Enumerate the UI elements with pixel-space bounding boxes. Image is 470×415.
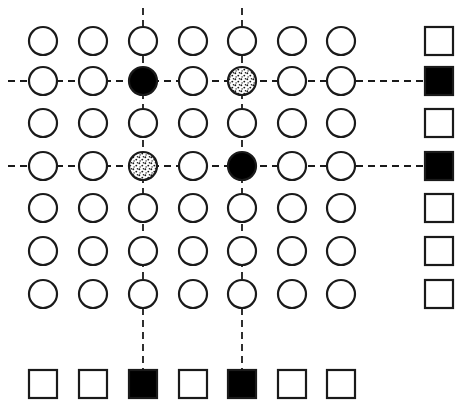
node-circle-r6-c7-open[interactable]: [327, 237, 355, 265]
node-circle-r4-c1-open[interactable]: [29, 152, 57, 180]
node-circle-r5-c5-open[interactable]: [228, 194, 256, 222]
node-circle-r1-c1-open[interactable]: [29, 27, 57, 55]
node-circle-r4-c3-stippled[interactable]: [129, 152, 157, 180]
node-circle-r1-c5-open[interactable]: [228, 27, 256, 55]
node-circle-r3-c1-open[interactable]: [29, 109, 57, 137]
bottom-square-c1-open[interactable]: [29, 370, 57, 398]
node-circle-r2-c3-filled[interactable]: [129, 67, 157, 95]
node-circle-r4-c5-filled[interactable]: [228, 152, 256, 180]
node-circle-r7-c4-open[interactable]: [179, 280, 207, 308]
node-circle-r3-c5-open[interactable]: [228, 109, 256, 137]
right-square-r6-open[interactable]: [425, 237, 453, 265]
node-circle-r4-c7-open[interactable]: [327, 152, 355, 180]
node-circle-r7-c6-open[interactable]: [278, 280, 306, 308]
node-circle-r7-c7-open[interactable]: [327, 280, 355, 308]
node-circle-r6-c5-open[interactable]: [228, 237, 256, 265]
node-circle-r6-c2-open[interactable]: [79, 237, 107, 265]
bottom-square-c5-filled[interactable]: [228, 370, 256, 398]
node-circle-r6-c3-open[interactable]: [129, 237, 157, 265]
diagram-canvas: [0, 0, 470, 415]
node-circle-r7-c1-open[interactable]: [29, 280, 57, 308]
node-circle-r5-c6-open[interactable]: [278, 194, 306, 222]
node-circle-r4-c6-open[interactable]: [278, 152, 306, 180]
right-square-r3-open[interactable]: [425, 109, 453, 137]
node-circle-r7-c3-open[interactable]: [129, 280, 157, 308]
node-circle-r3-c4-open[interactable]: [179, 109, 207, 137]
node-circle-r5-c4-open[interactable]: [179, 194, 207, 222]
right-square-r7-open[interactable]: [425, 280, 453, 308]
lattice-nodes: [29, 27, 453, 398]
node-circle-r3-c6-open[interactable]: [278, 109, 306, 137]
node-circle-r4-c2-open[interactable]: [79, 152, 107, 180]
bottom-square-c2-open[interactable]: [79, 370, 107, 398]
node-circle-r6-c4-open[interactable]: [179, 237, 207, 265]
bottom-square-c6-open[interactable]: [278, 370, 306, 398]
node-circle-r1-c7-open[interactable]: [327, 27, 355, 55]
node-circle-r5-c1-open[interactable]: [29, 194, 57, 222]
node-circle-r3-c2-open[interactable]: [79, 109, 107, 137]
node-circle-r2-c1-open[interactable]: [29, 67, 57, 95]
node-circle-r2-c4-open[interactable]: [179, 67, 207, 95]
right-square-r1-open[interactable]: [425, 27, 453, 55]
node-circle-r6-c6-open[interactable]: [278, 237, 306, 265]
bottom-square-c3-filled[interactable]: [129, 370, 157, 398]
node-circle-r2-c2-open[interactable]: [79, 67, 107, 95]
right-square-r4-filled[interactable]: [425, 152, 453, 180]
dashed-guide-lines: [8, 8, 439, 384]
node-circle-r7-c2-open[interactable]: [79, 280, 107, 308]
node-circle-r3-c3-open[interactable]: [129, 109, 157, 137]
node-circle-r1-c3-open[interactable]: [129, 27, 157, 55]
node-circle-r2-c5-stippled[interactable]: [228, 67, 256, 95]
node-circle-r1-c4-open[interactable]: [179, 27, 207, 55]
right-square-r5-open[interactable]: [425, 194, 453, 222]
node-circle-r6-c1-open[interactable]: [29, 237, 57, 265]
node-circle-r2-c7-open[interactable]: [327, 67, 355, 95]
node-circle-r5-c3-open[interactable]: [129, 194, 157, 222]
node-circle-r2-c6-open[interactable]: [278, 67, 306, 95]
bottom-square-c7-open[interactable]: [327, 370, 355, 398]
node-circle-r1-c2-open[interactable]: [79, 27, 107, 55]
node-circle-r5-c2-open[interactable]: [79, 194, 107, 222]
node-circle-r5-c7-open[interactable]: [327, 194, 355, 222]
node-circle-r7-c5-open[interactable]: [228, 280, 256, 308]
right-square-r2-filled[interactable]: [425, 67, 453, 95]
node-circle-r3-c7-open[interactable]: [327, 109, 355, 137]
lattice-diagram-svg: [0, 0, 470, 415]
node-circle-r1-c6-open[interactable]: [278, 27, 306, 55]
node-circle-r4-c4-open[interactable]: [179, 152, 207, 180]
bottom-square-c4-open[interactable]: [179, 370, 207, 398]
